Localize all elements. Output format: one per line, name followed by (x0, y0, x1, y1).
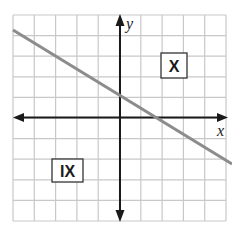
region-ix-label: IX (60, 163, 75, 180)
coordinate-plane: x y X IX (0, 0, 232, 239)
region-x-label: X (169, 58, 180, 75)
y-axis-label: y (124, 15, 134, 33)
region-x-box: X (161, 53, 187, 78)
y-axis-down-arrow-icon (116, 210, 125, 222)
x-axis-label: x (216, 122, 224, 139)
y-axis-up-arrow-icon (116, 14, 125, 26)
region-ix-box: IX (52, 159, 83, 182)
x-axis-left-arrow-icon (13, 113, 24, 122)
